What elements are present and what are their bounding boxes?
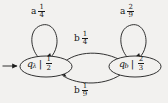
self-loop-right-label: a29 xyxy=(120,3,134,19)
state-subscript-q-lambda: λ xyxy=(33,62,37,70)
self-loop-left-symbol: a xyxy=(31,6,36,16)
state-separator-q-lambda: | xyxy=(37,58,43,69)
start-arrow xyxy=(3,64,18,69)
self-loop-right-probability: 29 xyxy=(127,4,133,20)
self-loop-right-symbol: a xyxy=(120,6,125,16)
edge-right-to-left-symbol: b xyxy=(74,85,80,95)
self-loop-left-probability: 14 xyxy=(38,4,44,20)
self-loop-left-label: a14 xyxy=(31,3,45,19)
state-label-q-lambda: qλ|12 xyxy=(27,56,52,72)
edge-right-to-left-label: b19 xyxy=(74,82,88,98)
self-loop-right-path xyxy=(121,25,146,59)
state-label-q-b: qb|23 xyxy=(119,56,144,72)
state-subscript-q-b: b xyxy=(125,62,129,70)
edge-right-to-left-probability: 19 xyxy=(82,83,88,99)
edge-right-to-left-path xyxy=(61,72,124,83)
edge-left-to-right-probability: 14 xyxy=(82,31,88,47)
self-loop-left-path xyxy=(32,25,57,59)
state-diagram-figure: a14 a29 b14 b19 qλ|12 qb|23 xyxy=(0,0,168,103)
edge-left-to-right-label: b14 xyxy=(74,30,88,46)
edge-left-to-right-symbol: b xyxy=(74,33,80,43)
state-separator-q-b: | xyxy=(129,58,135,69)
state-probability-q-b: 23 xyxy=(138,56,144,72)
state-probability-q-lambda: 12 xyxy=(46,56,52,72)
